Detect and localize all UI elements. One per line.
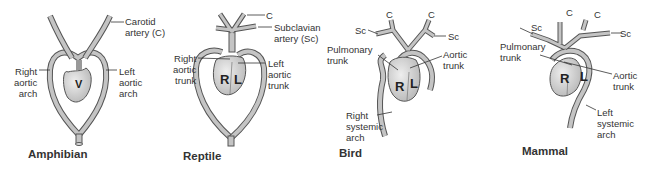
chamber-right: R [395, 79, 404, 94]
label-pulmonary-trunk: Pulmonary trunk [327, 44, 372, 66]
label-subclavian-artery: Subclavian artery (Sc) [274, 22, 320, 44]
chamber-right: R [560, 71, 569, 86]
label-carotid-left: C [386, 9, 393, 20]
label-aortic-trunk: Aortic trunk [613, 70, 637, 92]
panel-title-reptile: Reptile [183, 150, 221, 162]
label-subclavian-left: Sc [531, 22, 542, 33]
label-pulmonary-trunk: Pulmonary trunk [500, 41, 545, 63]
label-subclavian-right: Sc [448, 31, 459, 42]
label-carotid-left: C [566, 7, 573, 18]
label-carotid: C [266, 10, 273, 21]
panel-title-amphibian: Amphibian [28, 148, 87, 160]
label-carotid-right: C [594, 9, 601, 20]
panel-title-mammal: Mammal [522, 145, 568, 157]
label-right-aortic-arch: Right aortic arch [14, 66, 37, 99]
panel-title-bird: Bird [339, 147, 362, 159]
chamber-right: R [220, 72, 229, 87]
label-subclavian-left: Sc [355, 25, 366, 36]
label-right-aortic-trunk: Right aortic trunk [173, 53, 196, 86]
chamber-ventricle: V [75, 78, 82, 90]
label-subclavian-right: Sc [620, 28, 631, 39]
bird-heart [376, 20, 434, 136]
label-left-aortic-trunk: Left aortic trunk [268, 58, 291, 91]
label-aortic-trunk: Aortic trunk [443, 49, 467, 71]
chamber-left: L [410, 76, 418, 91]
label-carotid-right: C [428, 9, 435, 20]
label-carotid-artery: Carotid artery (C) [125, 16, 165, 38]
label-left-aortic-arch: Left aortic arch [119, 66, 142, 99]
reptile-heart [196, 14, 264, 146]
chamber-left: L [234, 72, 242, 87]
label-right-systemic-arch: Right systemic arch [346, 110, 383, 143]
chamber-left: L [580, 69, 588, 84]
label-left-systemic-arch: Left systemic arch [597, 107, 634, 140]
